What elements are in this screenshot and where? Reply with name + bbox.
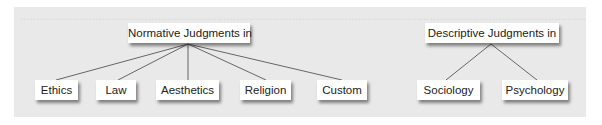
node-custom: Custom (317, 80, 367, 100)
edge-normative-custom (188, 44, 342, 80)
edge-normative-law (118, 44, 188, 80)
edge-descriptive-psychology (491, 44, 537, 80)
edge-normative-ethics (56, 44, 188, 80)
node-descriptive-judgments: Descriptive Judgments in (425, 23, 559, 43)
edge-normative-religion (188, 44, 266, 80)
edge-descriptive-sociology (446, 44, 491, 80)
connector-lines (0, 0, 602, 125)
node-psychology: Psychology (502, 80, 568, 100)
node-law: Law (96, 80, 136, 100)
node-sociology: Sociology (417, 80, 480, 100)
node-religion: Religion (240, 80, 291, 100)
node-normative-judgments: Normative Judgments in (128, 23, 250, 43)
node-aesthetics: Aesthetics (156, 80, 219, 100)
node-ethics: Ethics (35, 80, 78, 100)
